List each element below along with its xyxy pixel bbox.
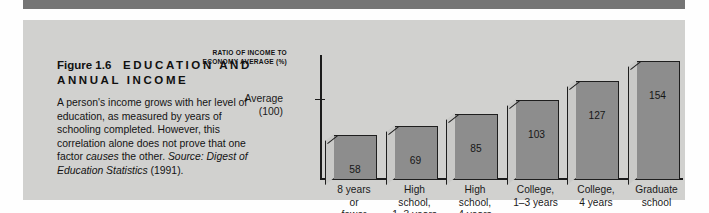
bar-slot: 154 (627, 52, 687, 180)
caption-emphasis: causes (86, 151, 119, 162)
caption-part-2: the other. (119, 151, 168, 162)
bar-value-label: 69 (395, 155, 437, 166)
bar-side-face (507, 99, 516, 185)
bar-chart: RATIO OF INCOME TO ECONOMY AVERAGE (%) A… (223, 42, 685, 213)
bar-slot: 69 (385, 52, 445, 180)
x-axis-label-line: Graduate (618, 184, 696, 197)
bar-side-face (446, 113, 455, 185)
figure-screenshot: Figure 1.6 EDUCATION AND ANNUAL INCOME A… (0, 0, 709, 213)
bar-5: 127 (575, 81, 619, 180)
bar-slot: 103 (506, 52, 566, 180)
reference-label-line-2: (100) (195, 105, 283, 118)
bar-value-label: 127 (576, 110, 618, 121)
bar-slot: 127 (566, 52, 626, 180)
bar-value-label: 85 (455, 143, 497, 154)
caption-year: (1991). (148, 165, 184, 176)
bar-6: 154 (636, 61, 680, 180)
reference-label-line-1: Average (195, 92, 283, 105)
figure-panel: Figure 1.6 EDUCATION AND ANNUAL INCOME A… (23, 20, 685, 200)
bar-slot: 85 (445, 52, 505, 180)
x-axis-label-6: Graduateschool (618, 184, 696, 209)
bar-value-label: 103 (516, 129, 558, 140)
bar-2: 69 (394, 126, 438, 180)
bar-3: 85 (454, 114, 498, 180)
bar-1: 58 (333, 135, 377, 180)
x-axis-label-line: 4 years (436, 209, 514, 213)
bar-value-label: 154 (637, 90, 679, 101)
bar-value-label: 58 (334, 164, 376, 175)
bar-4: 103 (515, 100, 559, 180)
bar-side-face (567, 80, 576, 185)
x-axis-label-line: school (618, 197, 696, 210)
y-axis-reference-label: Average (100) (195, 92, 283, 118)
page-top-rule (23, 0, 685, 9)
figure-number: Figure 1.6 (57, 59, 111, 71)
y-axis-title: RATIO OF INCOME TO ECONOMY AVERAGE (%) (195, 49, 287, 66)
bar-side-face (628, 60, 637, 185)
bar-slot: 58 (324, 52, 384, 180)
plot-area: 586985103127154 (320, 52, 683, 180)
